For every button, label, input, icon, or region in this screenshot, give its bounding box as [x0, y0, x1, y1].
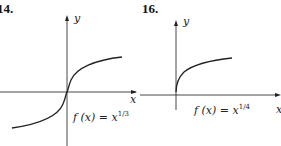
x-axis-label: x: [130, 93, 136, 106]
fourth-root-curve: [176, 58, 232, 92]
y-axis-arrow-icon: [174, 20, 178, 26]
graph-14-plot: [0, 0, 140, 146]
function-label-exponent: 1/4: [239, 103, 250, 111]
y-axis-label: y: [183, 15, 189, 28]
x-axis-arrow-icon: [275, 93, 281, 97]
problem-number: 14.: [0, 1, 13, 17]
x-axis-label: x: [276, 103, 281, 116]
graph-panel-16: 16. y x f (x) = x1/4: [140, 0, 281, 146]
function-label-base: f (x) = x: [194, 104, 239, 117]
function-label: f (x) = x1/3: [73, 110, 129, 124]
problem-number: 16.: [142, 1, 158, 17]
function-label: f (x) = x1/4: [194, 103, 250, 117]
function-label-base: f (x) = x: [73, 111, 118, 124]
y-axis-arrow-icon: [65, 15, 69, 21]
graph-panel-14: 14. y x f (x) = x1/3: [0, 0, 140, 146]
y-axis-label: y: [74, 12, 80, 25]
graph-16-plot: [140, 0, 281, 146]
function-label-exponent: 1/3: [118, 110, 129, 118]
